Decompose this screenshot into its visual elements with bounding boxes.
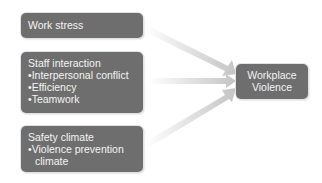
workplace-violence-box: Workplace Violence xyxy=(236,64,308,99)
efficiency-item: Efficiency xyxy=(28,81,136,93)
arrow-staff-interaction xyxy=(148,74,236,88)
target-line1: Workplace xyxy=(238,69,306,81)
staff-interaction-title: Staff interaction xyxy=(28,57,136,69)
work-stress-title: Work stress xyxy=(28,19,136,31)
safety-climate-title: Safety climate xyxy=(28,131,136,143)
safety-climate-box: Safety climate Violence prevention clima… xyxy=(21,126,143,172)
teamwork-item: Teamwork xyxy=(28,93,136,105)
work-stress-box: Work stress xyxy=(21,13,143,38)
target-line2: Violence xyxy=(238,81,306,93)
violence-prevention-continuation: climate xyxy=(28,155,136,167)
interpersonal-conflict-item: Interpersonal conflict xyxy=(28,69,136,81)
arrow-work-stress xyxy=(145,26,236,76)
arrow-safety-climate xyxy=(145,88,236,148)
violence-prevention-item: Violence prevention xyxy=(28,143,136,155)
staff-interaction-box: Staff interaction Interpersonal conflict… xyxy=(21,52,143,113)
